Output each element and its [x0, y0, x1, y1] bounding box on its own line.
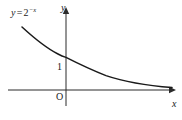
exponential-graph-figure: y=2−x y x 1 O: [0, 0, 182, 120]
equation-exponent: −x: [29, 6, 37, 13]
origin-label: O: [56, 92, 63, 102]
equation-label: y=2−x: [11, 8, 36, 18]
y-axis-label: y: [61, 3, 65, 13]
graph-canvas: [0, 0, 182, 120]
y-tick-label-one: 1: [57, 62, 62, 72]
x-axis-label: x: [172, 99, 176, 109]
exponential-decay-curve: [22, 27, 172, 88]
equation-variable: y: [11, 7, 16, 18]
